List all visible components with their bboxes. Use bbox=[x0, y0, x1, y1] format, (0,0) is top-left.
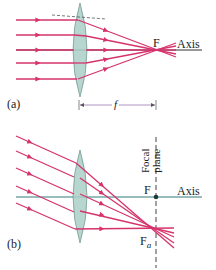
panel-a bbox=[16, 3, 202, 110]
focal-plane-label: Focal plane bbox=[140, 149, 162, 173]
focal-point-label-b: F bbox=[144, 184, 151, 196]
refracted-rays-a bbox=[74, 20, 176, 79]
axis-label-b: Axis bbox=[177, 185, 200, 197]
refracted-rays-b bbox=[75, 163, 174, 248]
off-axis-focus-subscript: a bbox=[147, 240, 152, 250]
panel-b bbox=[16, 136, 202, 268]
focal-point-label-a: F bbox=[153, 37, 160, 49]
off-axis-focus-F: F bbox=[140, 234, 147, 248]
panel-label-b: (b) bbox=[7, 238, 21, 250]
incoming-rays-a bbox=[16, 20, 78, 79]
focal-length-label: f bbox=[112, 99, 119, 110]
off-axis-focus-label: Fa bbox=[140, 235, 151, 250]
axis-label-a: Axis bbox=[177, 38, 200, 50]
panel-label-a: (a) bbox=[7, 98, 20, 110]
focal-point-dot bbox=[154, 195, 159, 200]
focal-plane-label-line2: plane bbox=[150, 149, 162, 173]
incoming-rays-b bbox=[16, 136, 76, 229]
lens-focus-diagram: F Axis (a) f Focal plane F Axis Fa (b) bbox=[0, 0, 216, 270]
